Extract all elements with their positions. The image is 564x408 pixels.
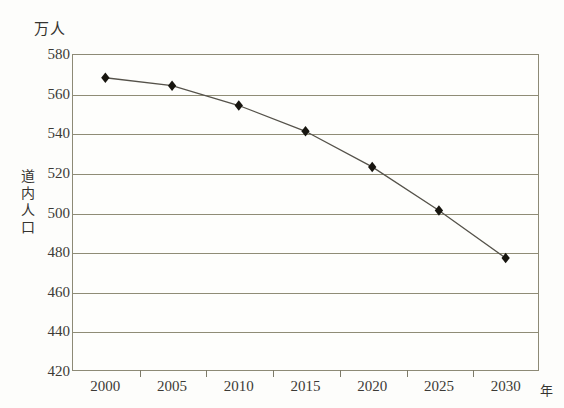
x-axis-tick-label: 2005 xyxy=(157,378,187,395)
y-axis-tick-label: 580 xyxy=(26,46,70,63)
gridline xyxy=(73,214,538,215)
y-axis-tick-labels: 580560540520500480460440420 xyxy=(18,0,70,408)
y-axis-tick-label: 520 xyxy=(26,164,70,181)
x-axis-tick-label: 2010 xyxy=(224,378,254,395)
y-axis-tick-label: 480 xyxy=(26,244,70,261)
y-axis-tick-label: 440 xyxy=(26,323,70,340)
x-axis-tick-label: 2030 xyxy=(491,378,521,395)
y-axis-tick-label: 560 xyxy=(26,85,70,102)
x-axis-tick-label: 2020 xyxy=(357,378,387,395)
gridline xyxy=(73,95,538,96)
x-axis-tick-label: 2015 xyxy=(291,378,321,395)
x-axis-tick xyxy=(340,370,341,377)
gridline xyxy=(73,134,538,135)
gridline xyxy=(73,293,538,294)
gridline xyxy=(73,174,538,175)
y-axis-tick-label: 500 xyxy=(26,204,70,221)
y-axis-tick-label: 540 xyxy=(26,125,70,142)
plot-area xyxy=(72,54,539,371)
x-axis-tick-label: 2025 xyxy=(424,378,454,395)
y-axis-tick-label: 460 xyxy=(26,283,70,300)
gridline xyxy=(73,253,538,254)
x-axis-tick xyxy=(473,370,474,377)
x-axis-tick xyxy=(273,370,274,377)
population-line-chart: 万人 道 内 人 口 580560540520500480460440420 年… xyxy=(0,0,564,408)
x-axis-unit-label: 年 xyxy=(540,380,553,399)
y-axis-tick-label: 420 xyxy=(26,363,70,380)
x-axis-tick xyxy=(140,370,141,377)
x-axis-tick-label: 2000 xyxy=(90,378,120,395)
x-axis-tick xyxy=(407,370,408,377)
gridline xyxy=(73,332,538,333)
x-axis-tick xyxy=(206,370,207,377)
